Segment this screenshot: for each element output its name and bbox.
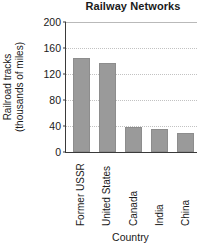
y-axis-tick-label: 40 <box>49 120 61 132</box>
bar-series <box>66 22 197 152</box>
y-axis-tick-label: 120 <box>43 68 61 80</box>
x-axis-tick-label-text: China <box>181 200 191 226</box>
x-axis-tick-label-text: United States <box>102 166 112 226</box>
x-axis-tick-label: Former USSR <box>73 156 90 226</box>
x-axis-tick-label-text: India <box>155 204 165 226</box>
x-axis-tick-label: Canada <box>125 156 142 226</box>
y-axis-tick-label: 160 <box>43 42 61 54</box>
x-axis-tick-label-text: Canada <box>129 191 139 226</box>
y-axis-title-line-1: Railroad tracks <box>2 22 14 152</box>
x-axis-tick-label: United States <box>99 156 116 226</box>
bar <box>125 127 142 152</box>
x-axis-tick-label: China <box>177 156 194 226</box>
bar <box>99 63 116 152</box>
y-axis-tick-label: 0 <box>55 146 61 158</box>
y-axis-title-line-2: (thousands of miles) <box>14 22 28 152</box>
x-axis-tick-label-text: Former USSR <box>76 163 86 226</box>
bar <box>151 129 168 152</box>
x-axis-title: Country <box>65 231 196 243</box>
y-axis-tick-label: 200 <box>43 16 61 28</box>
bar <box>177 133 194 152</box>
plot-area: 04080120160200 Former USSRUnited StatesC… <box>65 22 197 153</box>
x-axis-tick-label: India <box>151 156 168 226</box>
bar <box>73 58 90 152</box>
chart-title: Railway Networks <box>60 0 206 12</box>
y-axis-tick-label: 80 <box>49 94 61 106</box>
bar-chart: Railway Networks Railroad tracks (thousa… <box>0 0 210 247</box>
